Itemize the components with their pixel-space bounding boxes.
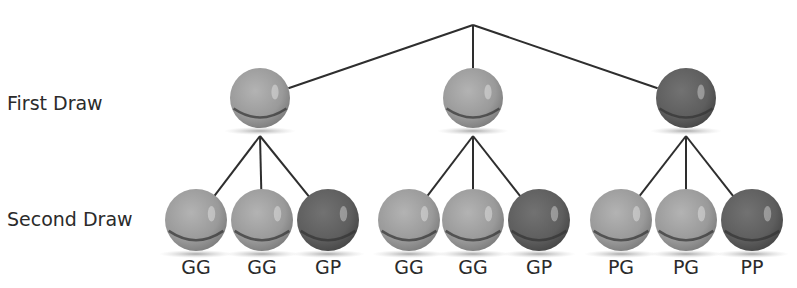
outcome-label: GP [295,256,361,278]
second-draw-marble-green [584,189,658,258]
second-draw-marble-green [649,189,723,258]
first-draw-marble-purple [650,68,722,135]
edge-first-to-second-6 [473,136,521,197]
outcome-label: GG [229,256,295,278]
outcome-label: PG [653,256,719,278]
first-draw-label: First Draw [7,92,103,114]
outcome-label: PP [719,256,785,278]
second-draw-marble-green [225,189,299,258]
first-draw-marble-green [224,68,296,135]
edge-first-to-second-7 [639,136,686,197]
outcome-label: GG [163,256,229,278]
second-draw-marble-green [372,189,446,258]
edge-first-to-second-9 [686,136,734,197]
second-draw-label: Second Draw [7,208,133,230]
second-draw-marble-green [159,189,233,258]
second-draw-marble-purple [715,189,789,258]
outcome-label: GP [506,256,572,278]
edge-first-to-second-4 [427,136,473,197]
outcome-label: GG [440,256,506,278]
first-draw-marble-green [437,68,509,135]
outcome-label: GG [376,256,442,278]
edge-first-to-second-3 [260,136,309,197]
tree-diagram [0,0,797,288]
second-draw-marble-purple [291,189,365,258]
second-draw-marble-purple [502,189,576,258]
edge-first-to-second-1 [214,136,260,197]
second-draw-marble-green [436,189,510,258]
outcome-label: PG [588,256,654,278]
edge-root-to-first-3 [473,25,658,88]
edge-root-to-first-1 [288,25,473,88]
edge-first-to-second-2 [260,136,261,191]
